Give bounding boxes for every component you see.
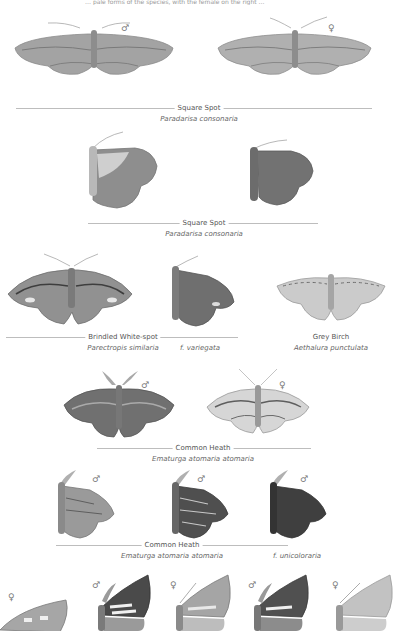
female-symbol: ♀ (332, 580, 339, 590)
male-symbol: ♂ (92, 474, 100, 484)
moth-illustration-square-spot-resting-1 (85, 130, 165, 210)
moth-illustration-brindled-white-spot-variegata (168, 256, 240, 331)
moth-illustration-common-heath-male (62, 365, 176, 440)
common-name-label: Grey Birch (310, 333, 353, 342)
form-label: f. variegata (180, 344, 220, 353)
male-symbol: ♂ (141, 380, 149, 390)
moth-illustration-common-heath-female (205, 365, 311, 435)
scientific-name-label: Ematurga atomaria atomaria (152, 455, 254, 464)
male-symbol: ♂ (197, 474, 205, 484)
female-symbol: ♀ (8, 592, 15, 602)
male-symbol: ♂ (300, 474, 308, 484)
moth-illustration-square-spot-female (215, 20, 375, 80)
male-symbol: ♂ (121, 23, 129, 33)
common-name-label: Common Heath (142, 541, 203, 550)
male-symbol: ♂ (248, 580, 256, 590)
moth-illustration-brindled-white-spot (6, 256, 136, 326)
scientific-name-label: Parectropis similaria (87, 344, 158, 353)
moth-illustration-square-spot-male (10, 20, 180, 80)
moth-illustration-common-heath-unicoloraria (266, 470, 332, 542)
common-name-label: Brindled White-spot (85, 333, 160, 342)
male-symbol: ♂ (92, 580, 100, 590)
common-name-label: Square Spot (175, 104, 224, 113)
scientific-name-label: Ematurga atomaria atomaria (121, 552, 223, 561)
moth-illustration-common-heath-resting-1 (54, 470, 120, 542)
common-name-label: Square Spot (180, 219, 229, 228)
moth-illustration-grey-birch (275, 272, 387, 326)
form-label: f. unicoloraria (273, 552, 321, 561)
female-symbol: ♀ (328, 23, 335, 33)
female-symbol: ♀ (279, 380, 286, 390)
scientific-name-label: Paradarisa consonaria (165, 230, 243, 239)
female-symbol: ♀ (170, 580, 177, 590)
moth-illustration-square-spot-resting-2 (245, 135, 320, 210)
page-header-fragment: … pale forms of the species, with the fe… (85, 0, 402, 5)
scientific-name-label: Paradarisa consonaria (160, 115, 238, 124)
common-name-label: Common Heath (173, 444, 234, 453)
scientific-name-label: Aethalura punctulata (294, 344, 368, 353)
